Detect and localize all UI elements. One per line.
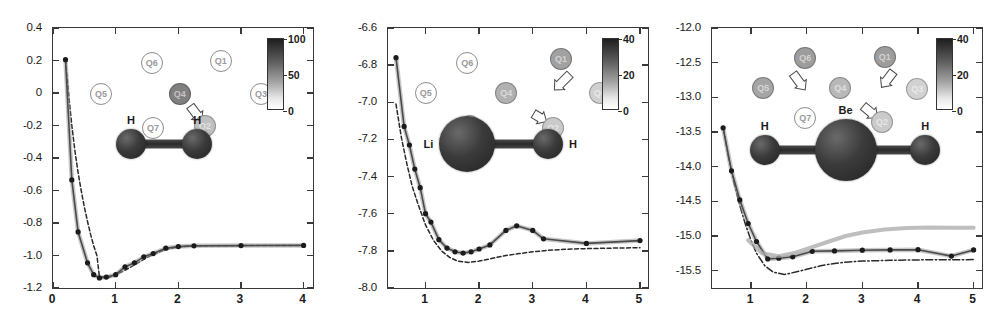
- plot-area-h2: Q6Q1Q5Q4Q3Q7Q2HH100500: [53, 28, 313, 288]
- atom-label: H: [193, 114, 201, 126]
- x-tick-mark: [240, 282, 241, 288]
- qubit-label: Q6: [799, 53, 811, 63]
- y-axis-labels-beh2: -12.0-12.5-13.0-13.5-14.0-14.5-15.0-15.5: [669, 27, 707, 289]
- x-axis-labels-beh2: 12345: [711, 292, 983, 316]
- y-tick-mark-right: [642, 64, 648, 65]
- y-tick-label: -1.2: [23, 281, 42, 293]
- x-tick-mark-top: [973, 28, 974, 34]
- x-tick-mark-top: [303, 28, 304, 34]
- y-tick-mark: [53, 255, 59, 256]
- x-axis-labels-lih: 12345: [387, 292, 649, 316]
- x-tick-mark-top: [52, 28, 53, 34]
- colorbar-tick: [283, 39, 287, 40]
- y-tick-mark-right: [976, 201, 982, 202]
- x-tick-mark-top: [750, 28, 751, 34]
- colorbar-tick: [283, 111, 287, 112]
- y-tick-label: -7.4: [358, 170, 377, 182]
- y-tick-mark-right: [642, 250, 648, 251]
- x-tick-mark: [425, 282, 426, 288]
- y-tick-mark: [53, 27, 59, 28]
- colorbar-tick: [952, 39, 956, 40]
- colorbar-tick-label: 0: [957, 105, 963, 117]
- y-tick-mark: [53, 157, 59, 158]
- x-tick-mark: [478, 282, 479, 288]
- y-tick-mark: [712, 97, 718, 98]
- x-tick-mark: [806, 282, 807, 288]
- y-tick-mark-right: [642, 213, 648, 214]
- y-tick-mark-right: [307, 222, 313, 223]
- entangling-arrow: [787, 69, 810, 94]
- qubit-node-q6: Q6: [456, 52, 478, 74]
- qubit-node-q6: Q6: [794, 47, 816, 69]
- y-tick-label: -0.8: [23, 216, 42, 228]
- colorbar-tick-label: 40: [623, 33, 635, 45]
- y-tick-label: -14.0: [676, 160, 701, 172]
- y-tick-mark: [53, 287, 59, 288]
- y-tick-label: -7.8: [358, 244, 377, 256]
- x-tick-label: 1: [111, 292, 118, 306]
- atom-h: [116, 129, 146, 159]
- x-tick-mark-top: [532, 28, 533, 34]
- y-tick-label: 0: [36, 86, 42, 98]
- x-tick-mark: [917, 282, 918, 288]
- colorbar-tick: [618, 111, 622, 112]
- y-tick-mark: [388, 102, 394, 103]
- y-tick-mark: [53, 190, 59, 191]
- y-tick-mark: [388, 287, 394, 288]
- y-tick-mark: [388, 139, 394, 140]
- x-tick-label: 3: [858, 292, 865, 306]
- atom-h: [182, 129, 212, 159]
- x-tick-mark-top: [178, 28, 179, 34]
- y-tick-label: -6.6: [358, 21, 377, 33]
- x-tick-mark: [115, 282, 116, 288]
- x-tick-label: 0: [49, 292, 56, 306]
- qubit-node-q4: Q4: [829, 77, 851, 99]
- qubit-node-q5: Q5: [90, 83, 112, 105]
- y-tick-mark-right: [307, 60, 313, 61]
- colorbar-tick-label: 0: [623, 105, 629, 117]
- y-tick-label: -8.0: [358, 281, 377, 293]
- qubit-node-q4: Q4: [495, 82, 517, 104]
- x-tick-mark-top: [115, 28, 116, 34]
- y-tick-label: -7.0: [358, 95, 377, 107]
- y-axis-labels-lih: -6.6-6.8-7.0-7.2-7.4-7.6-7.8-8.0: [335, 27, 383, 289]
- y-tick-label: -13.0: [676, 90, 701, 102]
- qubit-node-q1: Q1: [550, 48, 572, 70]
- qubit-node-q1: Q1: [210, 50, 232, 72]
- y-tick-label: -13.5: [676, 125, 701, 137]
- y-tick-mark: [53, 222, 59, 223]
- y-tick-mark: [388, 213, 394, 214]
- y-tick-mark-right: [642, 139, 648, 140]
- atom-h: [910, 135, 940, 165]
- y-tick-mark: [712, 270, 718, 271]
- y-tick-mark: [712, 27, 718, 28]
- x-tick-label: 4: [299, 292, 306, 306]
- x-tick-mark-top: [862, 28, 863, 34]
- atom-li: [439, 116, 495, 172]
- y-tick-mark-right: [307, 157, 313, 158]
- y-tick-label: -0.2: [23, 119, 42, 131]
- qubit-node-q1: Q1: [874, 46, 896, 68]
- x-tick-mark-top: [639, 28, 640, 34]
- qubit-label: Q2: [876, 117, 888, 127]
- qubit-node-q5: Q5: [752, 77, 774, 99]
- y-tick-mark-right: [307, 125, 313, 126]
- y-tick-label: -0.6: [23, 184, 42, 196]
- y-tick-mark-right: [976, 166, 982, 167]
- y-tick-mark-right: [642, 287, 648, 288]
- colorbar-gradient: [268, 39, 283, 109]
- atom-h: [533, 129, 563, 159]
- plot-area-beh2: Q6Q1Q5Q4Q3Q7Q2HBeH40200: [712, 28, 982, 288]
- y-tick-mark-right: [307, 27, 313, 28]
- y-tick-mark-right: [976, 62, 982, 63]
- panel-beh2: -12.0-12.5-13.0-13.5-14.0-14.5-15.0-15.5…: [669, 0, 1004, 329]
- colorbar-h2: 100500: [267, 38, 284, 110]
- atom-label: H: [921, 120, 929, 132]
- atom-label: H: [127, 114, 135, 126]
- qubit-node-q4: Q4: [169, 83, 191, 105]
- panel-lih: -6.6-6.8-7.0-7.2-7.4-7.6-7.8-8.0 Q6Q1Q5Q…: [335, 0, 670, 329]
- x-tick-label: 1: [421, 292, 428, 306]
- y-tick-label: -6.8: [358, 58, 377, 70]
- y-tick-mark-right: [642, 27, 648, 28]
- qubit-node-q6: Q6: [141, 52, 163, 74]
